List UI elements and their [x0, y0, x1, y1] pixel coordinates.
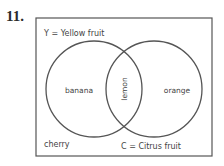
- venn-diagram: Y = Yellow fruit banana lemon orange che…: [0, 0, 224, 166]
- region-y-only: banana: [65, 86, 93, 95]
- region-intersection: lemon: [120, 77, 129, 101]
- region-c-only: orange: [164, 86, 191, 95]
- set-c-label: C = Citrus fruit: [121, 142, 181, 151]
- region-outside: cherry: [44, 140, 70, 149]
- set-y-label: Y = Yellow fruit: [43, 29, 104, 38]
